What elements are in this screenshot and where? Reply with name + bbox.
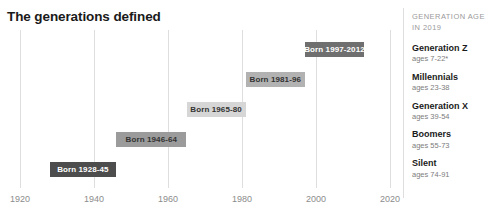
legend-entry-silent[interactable]: Silentages 74-91 <box>412 158 489 179</box>
gridline-1920 <box>20 30 21 188</box>
bar-silent[interactable]: Born 1928-45 <box>50 162 117 177</box>
bar-label: Born 1965-80 <box>190 106 241 114</box>
bar-label: Born 1928-45 <box>57 166 108 174</box>
x-tick-label: 1940 <box>84 194 104 204</box>
bar-label: Born 1981-96 <box>250 76 301 84</box>
bar-boomers[interactable]: Born 1946-64 <box>116 132 186 147</box>
x-axis: 192019401960198020002020 <box>0 188 400 219</box>
bar-generation-x[interactable]: Born 1965-80 <box>187 102 246 117</box>
legend-entry-name: Generation X <box>412 101 489 112</box>
legend-entry-ages: ages 55-73 <box>412 141 489 151</box>
x-tick-label: 2000 <box>306 194 326 204</box>
legend-header-line-2: IN 2019 <box>412 23 489 34</box>
bar-millennials[interactable]: Born 1981-96 <box>246 72 305 87</box>
legend-entry-ages: ages 39-54 <box>412 112 489 122</box>
x-tick-label: 1960 <box>158 194 178 204</box>
plot-area: Born 1997-2012Born 1981-96Born 1965-80Bo… <box>0 30 400 188</box>
legend-panel: GENERATION AGE IN 2019 Generation Zages … <box>403 8 489 198</box>
page-title: The generations defined <box>7 9 161 24</box>
legend-entry-generation-x[interactable]: Generation Xages 39-54 <box>412 101 489 122</box>
bar-label: Born 1946-64 <box>126 136 177 144</box>
x-tick-label: 1980 <box>232 194 252 204</box>
bar-generation-z[interactable]: Born 1997-2012 <box>305 42 364 57</box>
x-tick-label: 1920 <box>10 194 30 204</box>
legend-entry-list: Generation Zages 7-22*Millennialsages 23… <box>412 43 489 180</box>
legend-entry-name: Generation Z <box>412 43 489 54</box>
legend-entry-name: Millennials <box>412 72 489 83</box>
legend-header: GENERATION AGE IN 2019 <box>412 12 489 34</box>
legend-header-line-1: GENERATION AGE <box>412 12 489 23</box>
legend-entry-generation-z[interactable]: Generation Zages 7-22* <box>412 43 489 64</box>
bar-label: Born 1997-2012 <box>304 46 365 54</box>
gridline-1960 <box>168 30 169 188</box>
legend-entry-boomers[interactable]: Boomersages 55-73 <box>412 129 489 150</box>
legend-entry-name: Silent <box>412 158 489 169</box>
legend-entry-millennials[interactable]: Millennialsages 23-38 <box>412 72 489 93</box>
legend-entry-ages: ages 74-91 <box>412 170 489 180</box>
legend-entry-name: Boomers <box>412 129 489 140</box>
x-tick-label: 2020 <box>380 194 400 204</box>
gridline-2020 <box>390 30 391 188</box>
legend-entry-ages: ages 7-22* <box>412 54 489 64</box>
chart-page: The generations defined Born 1997-2012Bo… <box>0 0 489 219</box>
legend-entry-ages: ages 23-38 <box>412 83 489 93</box>
